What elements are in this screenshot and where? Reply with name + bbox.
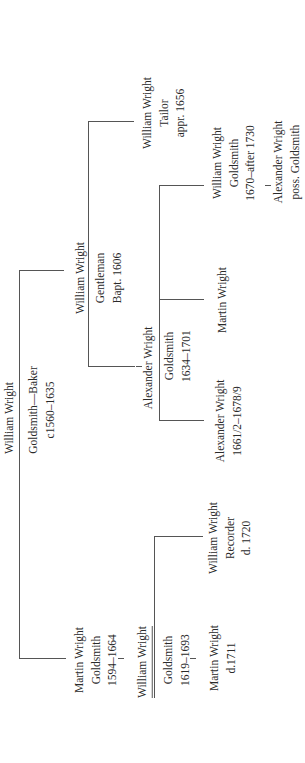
william1619-bracket-line	[154, 536, 155, 698]
william1619-to-recorder-line	[154, 536, 203, 537]
alexander-to-william-line	[159, 185, 204, 186]
alexander-to-martin-line	[159, 299, 204, 300]
root-to-martin-line	[19, 658, 66, 659]
root-to-gentleman-line	[19, 270, 64, 271]
alexander-to-alexander-line	[159, 420, 204, 421]
alexander-bracket-line	[159, 185, 160, 421]
root-bracket-line	[19, 270, 20, 659]
gentleman-to-tailor-line	[88, 121, 134, 122]
gentleman-to-alexander-line	[88, 366, 135, 367]
